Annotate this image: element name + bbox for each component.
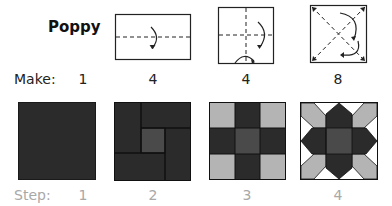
fold-diagram-square-diagonal [310,5,368,64]
step-4-block [300,102,378,180]
step-3-block [209,102,286,180]
make-count-2: 4 [133,71,173,87]
make-count-4: 8 [318,71,358,87]
make-count-3: 4 [226,71,266,87]
step-1-block [18,102,96,180]
step-2-block [114,102,191,181]
step-number-1: 1 [63,187,103,203]
step-label: Step: [14,187,51,203]
make-label: Make: [14,71,56,87]
fold-diagram-rectangle [115,14,191,60]
step-number-2: 2 [133,187,173,203]
make-count-1: 1 [63,71,103,87]
block-title: Poppy [48,18,101,36]
step-number-4: 4 [318,187,358,203]
fold-diagram-square-cross [218,7,275,65]
step-number-3: 3 [227,187,267,203]
